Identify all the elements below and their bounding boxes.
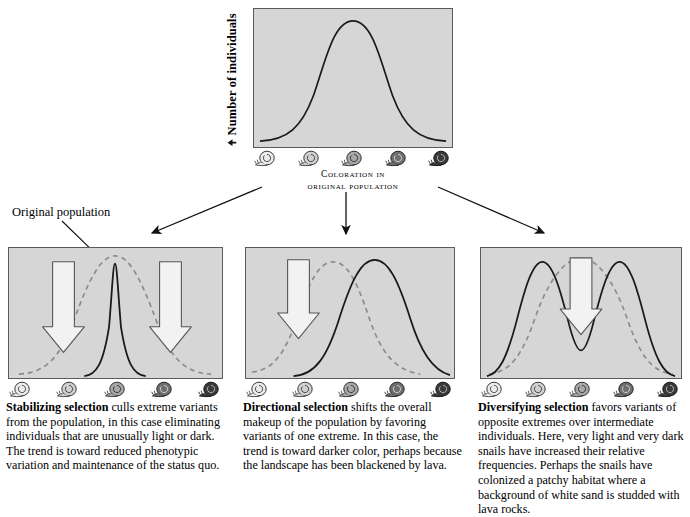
snail-icon-4 — [384, 149, 410, 167]
selection-arrow-right — [150, 262, 192, 353]
caption-directional-title: Directional selection — [243, 400, 348, 414]
stabilizing-selection-panel — [8, 247, 223, 379]
snail-icon-5 — [429, 380, 455, 398]
diversifying-curves — [481, 248, 681, 378]
snail-icon-1 — [245, 380, 271, 398]
selection-arrow-left — [278, 260, 320, 339]
snail-icon-1 — [8, 380, 34, 398]
y-axis-label: Number of individuals — [222, 10, 242, 150]
stabilizing-curves — [9, 248, 222, 378]
snail-icon-5 — [656, 380, 682, 398]
selection-arrow-center — [560, 258, 602, 335]
connector-arrow-center — [336, 190, 356, 240]
snail-icon-2 — [291, 380, 317, 398]
snail-gradient-strip-diversifying — [480, 379, 682, 398]
directional-curves — [246, 248, 454, 378]
snail-icon-3 — [340, 149, 366, 167]
snail-gradient-strip-top — [253, 148, 453, 167]
snail-icon-1 — [253, 149, 279, 167]
snail-icon-2 — [55, 380, 81, 398]
x-axis-label-line2: original population — [253, 180, 453, 192]
x-axis-label-line1: Coloration in — [253, 168, 453, 180]
snail-icon-2 — [524, 380, 550, 398]
diversifying-selection-panel — [480, 247, 682, 379]
caption-directional: Directional selection shifts the overall… — [243, 400, 465, 473]
snail-icon-1 — [480, 380, 506, 398]
snail-icon-5 — [427, 149, 453, 167]
snail-icon-3 — [568, 380, 594, 398]
selection-arrow-left — [43, 262, 85, 353]
snail-icon-4 — [612, 380, 638, 398]
snail-icon-4 — [383, 380, 409, 398]
snail-gradient-strip-directional — [245, 379, 455, 398]
caption-stabilizing: Stabilizing selection culls extreme vari… — [6, 400, 230, 473]
caption-diversifying-title: Diversifying selection — [478, 400, 589, 414]
y-axis-label-text: Number of individuals — [225, 13, 239, 135]
connector-arrow-left — [130, 183, 270, 239]
original-population-curve — [254, 9, 452, 147]
snail-icon-3 — [103, 380, 129, 398]
up-arrow-icon — [228, 139, 237, 147]
directional-selection-panel — [245, 247, 455, 379]
snail-icon-3 — [337, 380, 363, 398]
snail-icon-4 — [150, 380, 176, 398]
snail-icon-2 — [297, 149, 323, 167]
top-chart-panel — [253, 8, 453, 148]
snail-gradient-strip-stabilizing — [8, 379, 223, 398]
caption-diversifying: Diversifying selection favors variants o… — [478, 400, 686, 517]
snail-icon-5 — [197, 380, 223, 398]
caption-diversifying-body: favors variants of opposite extremes ove… — [478, 400, 684, 516]
caption-stabilizing-title: Stabilizing selection — [6, 400, 108, 414]
x-axis-label: Coloration in original population — [253, 168, 453, 192]
